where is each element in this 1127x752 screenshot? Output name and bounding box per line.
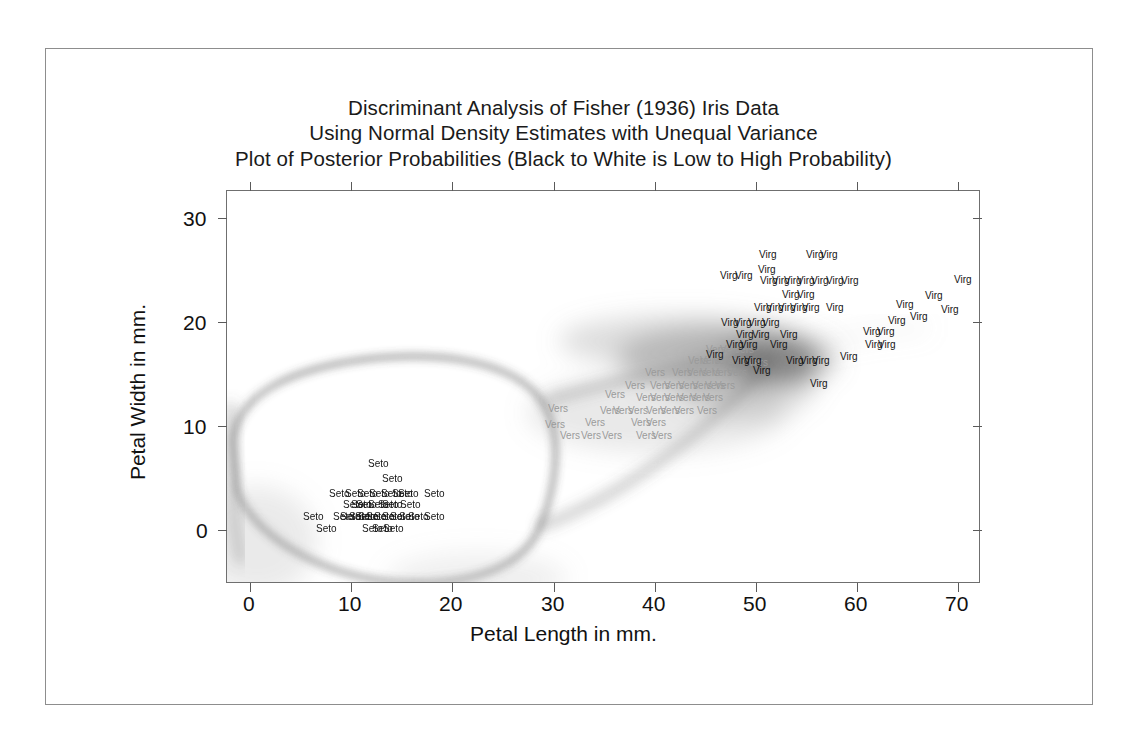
ytick-label-20: 20: [183, 311, 206, 335]
point-label-virg: Virg: [762, 318, 780, 328]
xtick-top-30: [554, 182, 555, 191]
point-label-seto: Seto: [400, 500, 421, 510]
point-label-virg: Virg: [841, 276, 859, 286]
point-label-vers: Vers: [560, 431, 580, 441]
point-label-vers: Vers: [715, 381, 735, 391]
xtick-top-60: [857, 182, 858, 191]
point-label-seto: Seto: [355, 512, 376, 522]
point-label-vers: Vers: [727, 368, 747, 378]
xtick-top-20: [452, 182, 453, 191]
ytick-right-30: [973, 218, 982, 219]
point-label-virg: Virg: [740, 340, 758, 350]
point-label-virg: Virg: [878, 340, 896, 350]
point-label-seto: Seto: [424, 489, 445, 499]
point-label-seto: Seto: [351, 500, 372, 510]
ytick-10: [218, 426, 227, 427]
xtick-label-70: 70: [945, 592, 968, 616]
xtick-40: [655, 583, 656, 592]
point-label-vers: Vers: [646, 418, 666, 428]
xtick-top-70: [958, 182, 959, 191]
ytick-right-0: [973, 530, 982, 531]
ytick-label-30: 30: [183, 207, 206, 231]
point-label-vers: Vers: [628, 406, 648, 416]
point-label-virg: Virg: [759, 250, 777, 260]
plot-frame: [226, 190, 980, 583]
xtick-label-10: 10: [338, 592, 361, 616]
point-label-vers: Vers: [581, 431, 601, 441]
point-label-vers: Vers: [674, 406, 694, 416]
xtick-20: [452, 583, 453, 592]
point-label-vers: Vers: [645, 368, 665, 378]
xtick-top-10: [351, 182, 352, 191]
xtick-top-0: [250, 182, 251, 191]
xtick-0: [250, 583, 251, 592]
point-label-virg: Virg: [941, 305, 959, 315]
xtick-60: [857, 583, 858, 592]
ytick-30: [218, 218, 227, 219]
point-label-virg: Virg: [802, 303, 820, 313]
point-label-virg: Virg: [877, 327, 895, 337]
ytick-0: [218, 530, 227, 531]
xtick-label-30: 30: [541, 592, 564, 616]
point-label-virg: Virg: [810, 379, 828, 389]
point-label-vers: Vers: [703, 393, 723, 403]
point-label-vers: Vers: [625, 381, 645, 391]
point-label-virg: Virg: [820, 250, 838, 260]
point-label-virg: Virg: [732, 356, 750, 366]
point-label-virg: Virg: [753, 366, 771, 376]
point-label-virg: Virg: [770, 340, 788, 350]
ytick-right-10: [973, 426, 982, 427]
point-label-vers: Vers: [605, 390, 625, 400]
point-label-seto: Seto: [378, 500, 399, 510]
posterior-probability-density: [227, 191, 979, 582]
y-axis-title: Petal Width in mm.: [126, 242, 150, 542]
x-axis-title: Petal Length in mm.: [0, 622, 1127, 646]
xtick-70: [958, 583, 959, 592]
point-label-vers: Vers: [585, 418, 605, 428]
point-label-virg: Virg: [888, 316, 906, 326]
point-label-virg: Virg: [812, 356, 830, 366]
xtick-label-40: 40: [642, 592, 665, 616]
xtick-30: [554, 583, 555, 592]
point-label-vers: Vers: [548, 404, 568, 414]
point-label-vers: Vers: [545, 420, 565, 430]
point-label-virg: Virg: [954, 275, 972, 285]
point-label-virg: Virg: [910, 312, 928, 322]
xtick-label-60: 60: [844, 592, 867, 616]
point-label-seto: Seto: [392, 489, 413, 499]
point-label-vers: Vers: [652, 431, 672, 441]
point-label-virg: Virg: [735, 271, 753, 281]
point-label-seto: Seto: [382, 474, 403, 484]
ytick-label-10: 10: [183, 415, 206, 439]
xtick-10: [351, 583, 352, 592]
xtick-label-20: 20: [439, 592, 462, 616]
point-label-seto: Seto: [303, 512, 324, 522]
ytick-label-0: 0: [196, 519, 208, 543]
ytick-20: [218, 322, 227, 323]
point-label-vers: Vers: [697, 406, 717, 416]
ytick-right-20: [973, 322, 982, 323]
point-label-virg: Virg: [758, 265, 776, 275]
point-label-seto: Seto: [368, 459, 389, 469]
point-label-seto: Seto: [408, 512, 429, 522]
xtick-top-40: [655, 182, 656, 191]
point-label-vers: Vers: [602, 431, 622, 441]
xtick-label-0: 0: [243, 592, 255, 616]
point-label-virg: Virg: [797, 290, 815, 300]
xtick-label-50: 50: [743, 592, 766, 616]
point-label-virg: Virg: [896, 300, 914, 310]
point-label-virg: Virg: [706, 350, 724, 360]
point-label-seto: Seto: [345, 489, 366, 499]
point-label-virg: Virg: [925, 291, 943, 301]
point-label-virg: Virg: [840, 352, 858, 362]
xtick-50: [756, 583, 757, 592]
point-label-virg: Virg: [826, 303, 844, 313]
point-label-seto: Seto: [316, 524, 337, 534]
point-label-seto: Seto: [383, 524, 404, 534]
plot-area: 0 10 20 30 40 50 60 70 0 10 20 30 Petal …: [0, 0, 1127, 752]
xtick-top-50: [756, 182, 757, 191]
